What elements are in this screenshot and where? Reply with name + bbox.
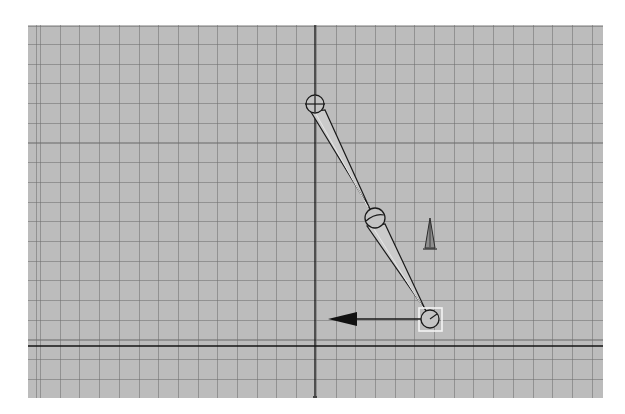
joint-1[interactable] (305, 95, 325, 113)
arrow-head-icon (328, 312, 357, 326)
pole-vector-icon[interactable] (423, 218, 437, 249)
move-arrow-manipulator[interactable] (328, 312, 421, 326)
joint-2[interactable] (365, 208, 385, 228)
bone-1[interactable] (311, 110, 370, 209)
bone-2[interactable] (367, 224, 426, 311)
joint-3-selected[interactable] (419, 308, 442, 331)
axis-origin-marker (313, 396, 317, 398)
